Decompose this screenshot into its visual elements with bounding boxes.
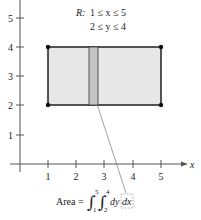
area-formula: Area = ∫ 5 1 ∫ 4 2 dy dx [56, 188, 133, 214]
integrand: dy [110, 196, 120, 207]
x-tick-4: 4 [131, 171, 136, 182]
x-tick-5: 5 [159, 171, 164, 182]
region-label: R: [75, 7, 85, 18]
x-tick-1: 1 [46, 171, 51, 182]
outer-lower-limit: 1 [93, 206, 97, 214]
outer-differential: dx [122, 196, 132, 207]
x-tick-2: 2 [74, 171, 79, 182]
y-ticks: 5 4 3 2 1 [8, 13, 24, 141]
region-rectangle [48, 47, 161, 105]
inner-lower-limit: 2 [104, 206, 108, 214]
y-tick-1: 1 [8, 130, 13, 141]
region-y-bounds: 2 ≤ y ≤ 4 [90, 21, 126, 32]
x-axis-arrow-icon [181, 162, 188, 167]
x-axis-label: x [189, 159, 195, 170]
y-tick-3: 3 [8, 71, 13, 82]
y-tick-2: 2 [8, 100, 13, 111]
region-x-bounds: 1 ≤ x ≤ 5 [90, 7, 126, 18]
double-integral-diagram: x 1 2 3 4 5 5 4 3 2 1 R: 1 ≤ x ≤ [0, 0, 201, 220]
x-ticks: 1 2 3 4 5 [46, 160, 164, 182]
vertical-strip [89, 47, 98, 105]
inner-upper-limit: 4 [106, 188, 110, 196]
y-tick-5: 5 [8, 13, 13, 24]
formula-prefix: Area = [56, 196, 84, 207]
y-tick-4: 4 [8, 42, 13, 53]
x-tick-3: 3 [102, 171, 107, 182]
